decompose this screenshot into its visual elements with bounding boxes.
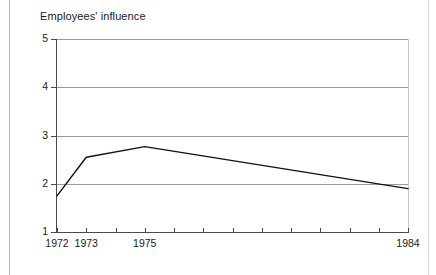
series-line-0 (57, 147, 408, 196)
chart-page: Employees' influence 12345 1972197319751… (0, 0, 436, 275)
series-layer (0, 0, 436, 275)
line-chart: Employees' influence 12345 1972197319751… (0, 0, 436, 275)
